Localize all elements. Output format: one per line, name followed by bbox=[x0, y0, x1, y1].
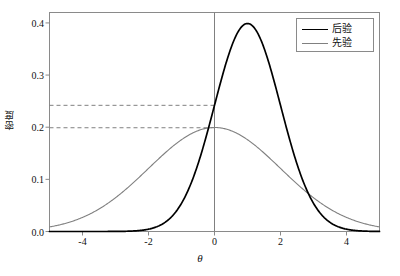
legend-label-posterior: 后验 bbox=[332, 23, 352, 35]
y-tick-labels: 0.00.10.20.30.4 bbox=[0, 0, 44, 276]
legend-label-prior: 先验 bbox=[332, 37, 352, 49]
y-axis-label: 密度 bbox=[4, 110, 18, 130]
x-tick-label-1: -2 bbox=[129, 236, 169, 247]
x-tick-label-3: 2 bbox=[261, 236, 301, 247]
y-tick-label-3: 0.3 bbox=[6, 70, 44, 81]
density-plot-figure: 0.00.10.20.30.4 -4-2024 密度 θ 后验 先验 bbox=[0, 0, 400, 276]
legend-swatch-posterior bbox=[302, 29, 328, 30]
legend-item-0[interactable]: 后验 bbox=[302, 22, 352, 36]
legend-swatch-prior bbox=[302, 43, 328, 44]
y-tick-label-4: 0.4 bbox=[6, 17, 44, 28]
x-tick-label-0: -4 bbox=[63, 236, 103, 247]
legend-item-1[interactable]: 先验 bbox=[302, 36, 352, 50]
y-tick-label-1: 0.1 bbox=[6, 174, 44, 185]
x-tick-label-4: 4 bbox=[327, 236, 367, 247]
y-tick-label-0: 0.0 bbox=[6, 226, 44, 237]
x-tick-label-2: 0 bbox=[195, 236, 235, 247]
legend[interactable]: 后验 先验 bbox=[296, 18, 374, 52]
x-axis-label: θ bbox=[0, 252, 400, 264]
